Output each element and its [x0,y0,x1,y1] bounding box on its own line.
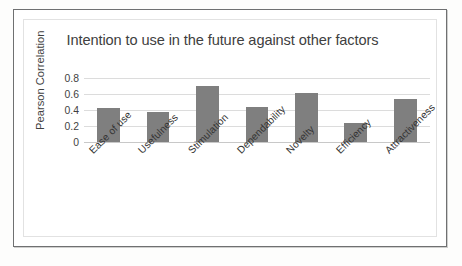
y-tick-label: 0 [73,138,79,147]
chart-outer-border: Intention to use in the future against o… [13,9,447,247]
y-tick-label: 0.8 [65,74,79,83]
y-axis-tick-labels: 00.20.40.60.8 [56,78,81,142]
x-axis-category-labels: Ease of useUsefulnessStimulationDependab… [84,144,430,214]
y-tick-label: 0.2 [65,122,79,131]
gridline [84,142,430,143]
y-axis-title: Pearson Correlation [34,34,46,130]
chart-inner-border: Intention to use in the future against o… [23,19,437,237]
y-tick-label: 0.6 [65,90,79,99]
scanned-page-background: Intention to use in the future against o… [0,0,462,266]
y-tick-label: 0.4 [65,106,79,115]
chart-title: Intention to use in the future against o… [50,32,395,49]
